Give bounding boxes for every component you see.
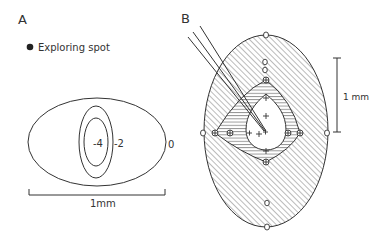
open-circle-icon [263, 59, 268, 65]
panel-a-label: A [18, 12, 27, 27]
scale-bar-b-label: 1 mm [343, 92, 369, 102]
exploring-spot-icon [27, 44, 34, 51]
circled-plus-icon [285, 130, 291, 136]
open-circle-icon [265, 200, 270, 206]
open-circle-icon [201, 130, 206, 136]
circled-plus-icon [297, 130, 303, 136]
open-circle-icon [263, 67, 268, 73]
open-circle-icon [325, 130, 330, 136]
panel-b-label: B [181, 11, 190, 26]
contour-label-0: 0 [168, 139, 174, 150]
contour-label-minus-4: -4 [93, 138, 103, 149]
panel-a: A Exploring spot -4 -2 0 1mm [18, 12, 174, 209]
open-circle-icon [265, 224, 270, 230]
contour-label-minus-2: -2 [114, 138, 124, 149]
circled-plus-icon [263, 159, 269, 165]
legend-text: Exploring spot [38, 42, 110, 53]
circled-plus-icon [263, 77, 269, 83]
circled-plus-icon [227, 130, 233, 136]
scale-bar-b: 1 mm [333, 58, 369, 132]
circled-plus-icon [212, 130, 218, 136]
scale-bar-a-label: 1mm [90, 198, 116, 209]
scale-bar-a: 1mm [29, 189, 165, 209]
open-circle-icon [264, 32, 269, 38]
panel-b: B [181, 11, 369, 230]
figure: A Exploring spot -4 -2 0 1mm B [0, 0, 379, 240]
